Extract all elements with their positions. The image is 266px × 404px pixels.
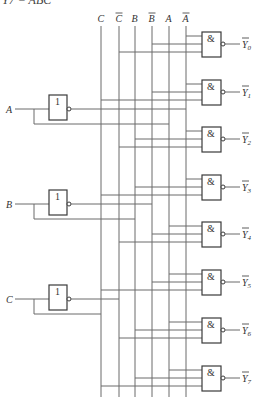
output-label-y7: Y7 xyxy=(242,373,252,386)
output-index: 3 xyxy=(247,187,252,195)
and-symbol: & xyxy=(207,81,215,92)
output-label-y6: Y6 xyxy=(242,325,252,338)
inversion-bubble xyxy=(67,107,71,111)
and-symbol: & xyxy=(207,128,215,139)
output-index: 4 xyxy=(248,234,252,242)
output-index: 0 xyxy=(248,44,252,52)
output-index: 7 xyxy=(248,378,252,386)
input-label-c: C xyxy=(6,294,13,305)
inverter-symbol: 1 xyxy=(55,191,60,202)
output-index: 6 xyxy=(248,330,252,338)
inversion-bubble xyxy=(221,137,225,141)
inversion-bubble xyxy=(221,280,225,284)
bus-label-a-bar: A xyxy=(182,13,190,24)
inversion-bubble xyxy=(67,297,71,301)
output-index: 2 xyxy=(248,139,252,147)
inverter-symbol: 1 xyxy=(55,286,60,297)
inversion-bubble xyxy=(221,42,225,46)
inversion-bubble xyxy=(221,90,225,94)
output-label-y2: Y2 xyxy=(242,134,252,147)
bus-label-c: C xyxy=(98,13,105,24)
bus-label-b: B xyxy=(132,13,138,24)
and-symbol: & xyxy=(207,176,215,187)
input-label-b: B xyxy=(6,199,12,210)
output-index: 5 xyxy=(248,282,252,290)
input-label-a: A xyxy=(5,104,13,115)
decoder-circuit-diagram: CCBBAAA1B1C1&Y0&Y1&Y2&Y3&Y4&Y5&Y6&Y7 xyxy=(0,0,266,404)
and-symbol: & xyxy=(207,319,215,330)
inversion-bubble xyxy=(221,185,225,189)
and-symbol: & xyxy=(207,367,215,378)
output-label-y5: Y5 xyxy=(242,277,252,290)
output-label-y0: Y0 xyxy=(242,39,252,52)
output-label-y1: Y1 xyxy=(242,87,251,100)
bus-label-b-bar: B xyxy=(149,13,155,24)
bus-label-a: A xyxy=(165,13,173,24)
inversion-bubble xyxy=(221,328,225,332)
inversion-bubble xyxy=(221,232,225,236)
and-symbol: & xyxy=(207,271,215,282)
output-label-y4: Y4 xyxy=(242,229,252,242)
inversion-bubble xyxy=(67,202,71,206)
output-index: 1 xyxy=(248,92,252,100)
and-symbol: & xyxy=(207,223,215,234)
output-label-y3: Y3 xyxy=(242,182,252,195)
and-symbol: & xyxy=(207,33,215,44)
bus-label-c-bar: C xyxy=(116,13,123,24)
inversion-bubble xyxy=(221,376,225,380)
inverter-symbol: 1 xyxy=(55,96,60,107)
